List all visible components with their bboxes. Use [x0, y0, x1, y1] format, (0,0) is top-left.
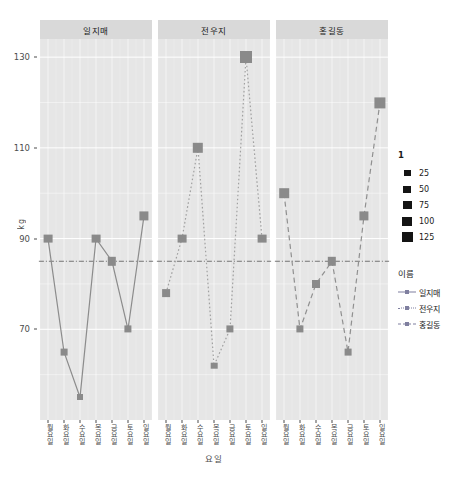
color-legend: 일지매전우지홍길동 — [398, 284, 468, 332]
legend-size-swatch — [398, 165, 416, 181]
legend-size-swatch — [398, 213, 416, 229]
legend-item: 75 — [398, 197, 468, 213]
legend-label: 50 — [419, 185, 429, 194]
legend-size-swatch — [398, 229, 416, 245]
y-tick-mark — [34, 147, 37, 148]
data-point — [44, 234, 53, 243]
data-point — [226, 326, 233, 333]
x-tick-mark — [246, 420, 247, 423]
x-tick-mark — [144, 420, 145, 423]
legend-item: 25 — [398, 165, 468, 181]
legend-item: 50 — [398, 181, 468, 197]
x-tick-label: 월요일 — [281, 424, 288, 445]
x-tick-label: 금요일 — [109, 424, 116, 445]
x-tick-mark — [332, 420, 333, 423]
facet-strip-label: 일지매 — [40, 20, 152, 39]
y-tick-mark — [34, 329, 37, 330]
data-point — [61, 349, 68, 356]
size-legend: 255075100125 — [398, 165, 468, 245]
x-tick-mark — [316, 420, 317, 423]
data-point — [139, 211, 148, 220]
legend-item: 125 — [398, 229, 468, 245]
x-tick-label: 토요일 — [125, 424, 132, 445]
data-point — [296, 326, 303, 333]
x-tick-mark — [128, 420, 129, 423]
x-axis-title: 요일 — [40, 452, 388, 464]
data-point — [240, 51, 252, 63]
legend-size-swatch — [398, 197, 416, 213]
data-point — [211, 362, 218, 369]
x-tick-label: 목요일 — [93, 424, 100, 445]
x-tick-mark — [380, 420, 381, 423]
legend-label: 일지매 — [419, 287, 440, 298]
plot-area — [276, 39, 388, 420]
plot-area — [158, 39, 270, 420]
legend-size-swatch — [398, 181, 416, 197]
legend-item: 전우지 — [398, 300, 468, 316]
data-point — [193, 143, 203, 153]
x-tick-label: 토요일 — [361, 424, 368, 445]
x-tick-mark — [64, 420, 65, 423]
x-tick-label: 일요일 — [259, 424, 266, 445]
x-tick-label: 수요일 — [195, 424, 202, 445]
x-tick-mark — [80, 420, 81, 423]
y-tick-label: 110 — [14, 143, 30, 153]
x-tick-mark — [214, 420, 215, 423]
x-tick-mark — [284, 420, 285, 423]
x-tick-mark — [166, 420, 167, 423]
x-tick-label: 일요일 — [377, 424, 384, 445]
x-tick-mark — [364, 420, 365, 423]
facet-strip-label: 전우지 — [158, 20, 270, 39]
x-tick-label: 목요일 — [329, 424, 336, 445]
x-tick-label: 토요일 — [243, 424, 250, 445]
x-tick-label: 금요일 — [345, 424, 352, 445]
x-tick-label: 수요일 — [77, 424, 84, 445]
x-tick-mark — [348, 420, 349, 423]
x-tick-mark — [230, 420, 231, 423]
x-tick-label: 월요일 — [163, 424, 170, 445]
x-tick-label: 화요일 — [297, 424, 304, 445]
y-tick-label: 130 — [14, 52, 30, 62]
chart-root: kg 7090110130 일지매전우지홍길동 월요일화요일수요일목요일금요일토… — [0, 0, 468, 480]
legend-area: 1 255075100125 이름 일지매전우지홍길동 — [398, 150, 468, 332]
x-tick-mark — [262, 420, 263, 423]
data-point — [108, 257, 116, 265]
data-point — [279, 188, 289, 198]
legend-line-swatch — [398, 301, 416, 315]
x-tick-label: 월요일 — [45, 424, 52, 445]
data-point — [345, 349, 352, 356]
x-tick-mark — [48, 420, 49, 423]
facet-strip-label: 홍길동 — [276, 20, 388, 39]
facet-panel: 홍길동 — [276, 20, 388, 420]
x-tick-mark — [112, 420, 113, 423]
x-tick-label: 일요일 — [141, 424, 148, 445]
x-tick-mark — [198, 420, 199, 423]
legend-label: 75 — [419, 201, 429, 210]
x-tick-label: 수요일 — [313, 424, 320, 445]
facet-panel: 전우지 — [158, 20, 270, 420]
data-point — [178, 234, 187, 243]
facet-panels: 일지매전우지홍길동 — [40, 20, 388, 420]
legend-label: 전우지 — [419, 303, 440, 314]
data-point — [77, 394, 83, 400]
legend-label: 25 — [419, 169, 429, 178]
legend-item: 100 — [398, 213, 468, 229]
x-tick-mark — [300, 420, 301, 423]
legend-item: 홍길동 — [398, 316, 468, 332]
x-tick-label: 화요일 — [179, 424, 186, 445]
x-tick-label: 목요일 — [211, 424, 218, 445]
facet-panel: 일지매 — [40, 20, 152, 420]
legend-line-swatch — [398, 285, 416, 299]
plot-area — [40, 39, 152, 420]
data-point — [328, 257, 336, 265]
x-tick-mark — [182, 420, 183, 423]
data-point — [374, 97, 385, 108]
data-point — [359, 211, 368, 220]
color-legend-title: 이름 — [398, 267, 468, 279]
y-axis: 7090110130 — [0, 0, 38, 480]
data-point — [124, 326, 131, 333]
legend-item: 일지매 — [398, 284, 468, 300]
legend-line-swatch — [398, 317, 416, 331]
data-point — [258, 234, 267, 243]
y-tick-label: 70 — [19, 324, 30, 334]
